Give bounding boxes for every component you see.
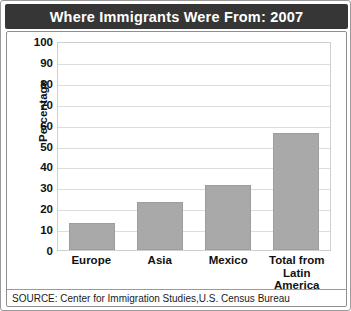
- bar-total-from-latin-america: [273, 133, 319, 250]
- y-axis-tick-30: 30: [40, 182, 53, 194]
- x-axis-label-total-from-latin-america: Total fromLatinAmerica: [264, 254, 330, 292]
- bar-asia: [137, 202, 183, 250]
- y-axis-tick-80: 80: [40, 78, 53, 90]
- bar-series: [58, 43, 330, 250]
- y-axis-tick-100: 100: [34, 36, 53, 48]
- page-title: Where Immigrants Were From: 2007: [50, 9, 304, 25]
- y-axis-tick-0: 0: [47, 245, 53, 257]
- y-axis-tick-70: 70: [40, 99, 53, 111]
- plot-area: [57, 42, 331, 251]
- x-axis-label-asia: Asia: [127, 254, 193, 267]
- bar-europe: [69, 223, 115, 250]
- x-axis-label-mexico: Mexico: [195, 254, 261, 267]
- bar-mexico: [205, 185, 251, 250]
- x-axis-label-europe: Europe: [58, 254, 124, 267]
- y-axis-tick-50: 50: [40, 141, 53, 153]
- y-axis-tick-90: 90: [40, 57, 53, 69]
- x-axis-tick-labels: EuropeAsiaMexicoTotal fromLatinAmerica: [57, 254, 331, 292]
- y-axis-tick-20: 20: [40, 203, 53, 215]
- y-axis-tick-40: 40: [40, 161, 53, 173]
- source-divider: [7, 289, 346, 290]
- y-axis-tick-60: 60: [40, 120, 53, 132]
- chart-title-bar: Where Immigrants Were From: 2007: [5, 4, 348, 29]
- source-note: SOURCE: Center for Immigration Studies,U…: [12, 293, 290, 304]
- chart-figure: Where Immigrants Were From: 2007 Percent…: [0, 0, 351, 311]
- y-axis-tick-10: 10: [40, 224, 53, 236]
- y-axis-tick-labels: 1009080706050403020100: [25, 37, 53, 251]
